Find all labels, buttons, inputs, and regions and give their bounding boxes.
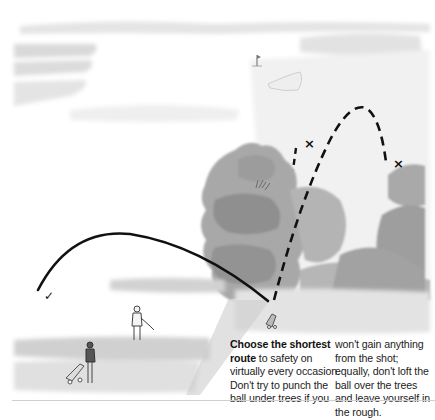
- divider-rule: [12, 400, 435, 401]
- check-mark-icon: ✓: [44, 289, 54, 303]
- cross-mark-icon: ×: [393, 156, 404, 171]
- caption-column-2: won't gain anything from the shot; equal…: [335, 338, 435, 420]
- cross-mark-icon: ×: [304, 136, 315, 151]
- caption-column-1: Choose the shortest route to safety on v…: [230, 338, 345, 406]
- golfer-swinging: [132, 306, 154, 340]
- caption-text-2: won't gain anything from the shot; equal…: [335, 338, 430, 418]
